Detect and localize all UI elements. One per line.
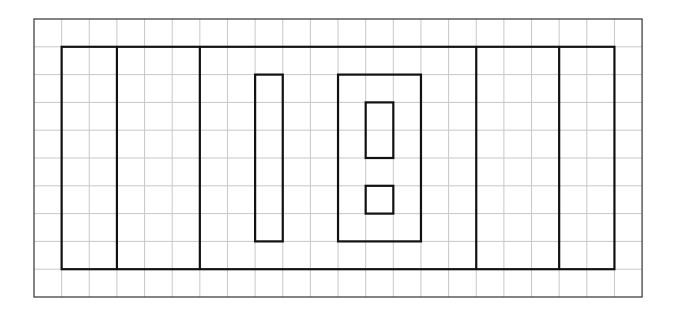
grid-diagram <box>0 0 674 313</box>
center-lower-small-square <box>366 186 394 214</box>
